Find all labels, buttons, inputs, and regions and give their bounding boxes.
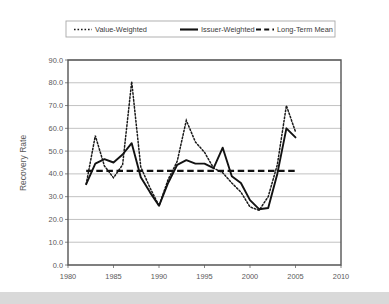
x-tick-label: 1990	[151, 272, 167, 281]
plot-background	[68, 60, 341, 265]
y-tick-label: 60.0	[49, 124, 63, 133]
y-tick-label: 20.0	[49, 215, 63, 224]
y-axis-label: Recovery Rate	[18, 135, 28, 191]
recovery-rate-line-chart: Value-WeightedIssuer-WeightedLong-Term M…	[0, 0, 389, 304]
legend-items: Value-WeightedIssuer-WeightedLong-Term M…	[74, 25, 333, 34]
x-tick-label: 2000	[242, 272, 258, 281]
y-tick-label: 50.0	[49, 147, 63, 156]
chart-legend: Value-WeightedIssuer-WeightedLong-Term M…	[66, 21, 335, 37]
y-tick-label: 30.0	[49, 192, 63, 201]
x-tick-label: 1985	[105, 272, 121, 281]
x-tick-label: 2010	[333, 272, 349, 281]
legend-label-issuer-weighted: Issuer-Weighted	[201, 25, 255, 34]
y-tick-label: 80.0	[49, 78, 63, 87]
y-tick-label: 90.0	[49, 56, 63, 65]
y-tick-label: 40.0	[49, 169, 63, 178]
bottom-gray-band	[0, 292, 389, 304]
y-tick-label: 70.0	[49, 101, 63, 110]
chart-figure: Value-WeightedIssuer-WeightedLong-Term M…	[0, 0, 389, 304]
legend-label-value-weighted: Value-Weighted	[95, 25, 147, 34]
y-tick-label: 0.0	[53, 261, 63, 270]
x-tick-label: 2005	[287, 272, 303, 281]
y-tick-label: 10.0	[49, 238, 63, 247]
x-tick-label: 1995	[196, 272, 212, 281]
x-tick-label: 1980	[60, 272, 76, 281]
plot-area: 0.010.020.030.040.050.060.070.080.090.0 …	[49, 56, 350, 281]
legend-label-long-term-mean: Long-Term Mean	[277, 25, 333, 34]
